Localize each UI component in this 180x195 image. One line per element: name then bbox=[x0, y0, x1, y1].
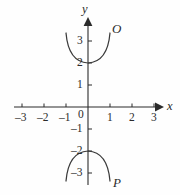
y-tick-label-1: 1 bbox=[77, 79, 83, 91]
coordinate-plane-svg bbox=[0, 0, 180, 195]
y-axis-arrowhead bbox=[84, 17, 93, 26]
origin-label: 0 bbox=[78, 109, 84, 121]
x-tick-label-1: 1 bbox=[107, 112, 113, 124]
curve-o-label: O bbox=[112, 22, 121, 35]
x-tick-label-2: 2 bbox=[129, 112, 135, 124]
x-tick-label-3: 3 bbox=[151, 112, 157, 124]
y-tick-label-2: 2 bbox=[77, 57, 83, 69]
x-tick-label-minus2: –2 bbox=[37, 112, 49, 124]
graph-figure: x y 0 –3 –2 –1 1 2 3 3 2 1 –1 –2 –3 O P bbox=[0, 0, 180, 195]
x-tick-label-minus1: –1 bbox=[59, 112, 71, 124]
curve-p-label: P bbox=[113, 176, 121, 189]
y-tick-label-3: 3 bbox=[77, 35, 83, 47]
y-tick-label-minus2: –2 bbox=[71, 145, 83, 157]
x-axis-label: x bbox=[167, 100, 173, 113]
x-tick-label-minus3: –3 bbox=[15, 112, 27, 124]
y-tick-label-minus3: –3 bbox=[71, 167, 83, 179]
y-tick-label-minus1: –1 bbox=[71, 123, 83, 135]
y-axis-label: y bbox=[82, 3, 88, 16]
